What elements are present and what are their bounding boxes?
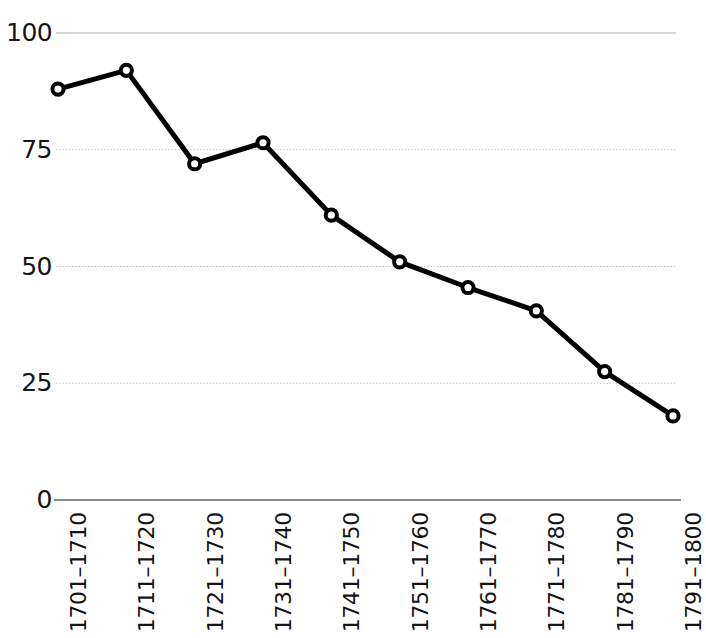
gridlines xyxy=(56,33,676,383)
data-point-marker[interactable] xyxy=(326,210,337,221)
data-point-marker[interactable] xyxy=(667,410,678,421)
data-point-marker[interactable] xyxy=(462,282,473,293)
data-point-marker[interactable] xyxy=(121,65,132,76)
data-series-line xyxy=(58,70,673,416)
series-polyline xyxy=(58,70,673,416)
data-point-marker[interactable] xyxy=(531,305,542,316)
data-point-marker[interactable] xyxy=(257,137,268,148)
data-point-marker[interactable] xyxy=(189,158,200,169)
data-point-marker[interactable] xyxy=(599,366,610,377)
data-point-marker[interactable] xyxy=(52,83,63,94)
data-point-marker[interactable] xyxy=(394,256,405,267)
data-point-markers xyxy=(52,65,678,422)
